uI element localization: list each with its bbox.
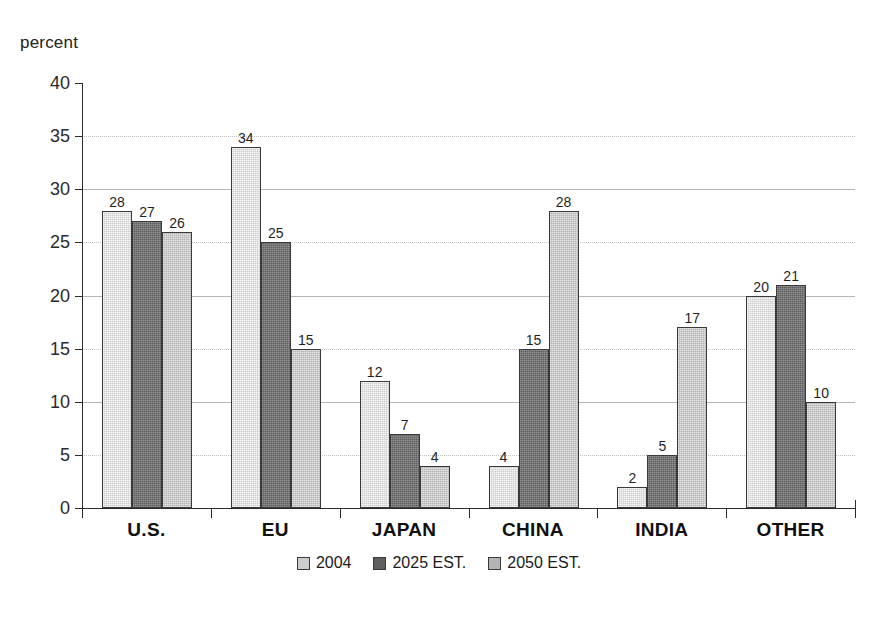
bar-value-label: 21	[783, 269, 799, 283]
y-axis-tick	[75, 83, 83, 84]
bar-value-label: 4	[500, 450, 508, 464]
scan-artifact	[120, 600, 798, 612]
bar-group: 2517	[597, 83, 726, 508]
y-axis-label: 25	[26, 233, 70, 251]
x-axis-category-label: OTHER	[726, 519, 855, 541]
bar-group: 41528	[469, 83, 598, 508]
bar[interactable]: 4	[489, 466, 519, 509]
x-axis-tick	[855, 509, 856, 518]
bar-chart: percent 2827263425151274415282517202110 …	[0, 0, 878, 618]
bar[interactable]: 12	[360, 381, 390, 509]
x-axis-tick	[726, 509, 727, 518]
bar[interactable]: 20	[746, 296, 776, 509]
bar-value-label: 28	[556, 195, 572, 209]
bar-value-label: 5	[658, 439, 666, 453]
bar-value-label: 12	[367, 365, 383, 379]
legend-item[interactable]: 2025 EST.	[373, 555, 466, 571]
bar-value-label: 2	[628, 471, 636, 485]
legend-label: 2025 EST.	[392, 555, 466, 571]
bar[interactable]: 15	[291, 349, 321, 508]
bar-value-label: 7	[401, 418, 409, 432]
legend-item[interactable]: 2004	[297, 555, 352, 571]
x-axis-tick	[597, 509, 598, 518]
legend-item[interactable]: 2050 EST.	[488, 555, 581, 571]
bar[interactable]: 15	[519, 349, 549, 508]
y-axis-label: 30	[26, 180, 70, 198]
bar-value-label: 20	[753, 280, 769, 294]
y-axis-tick	[75, 349, 83, 350]
bar-value-label: 28	[109, 195, 125, 209]
legend-label: 2004	[316, 555, 352, 571]
y-axis-tick	[75, 189, 83, 190]
bar-value-label: 26	[169, 216, 185, 230]
x-axis-category-label: U.S.	[82, 519, 211, 541]
y-axis-tick	[75, 242, 83, 243]
bar-value-label: 15	[298, 333, 314, 347]
legend-swatch-icon	[373, 557, 386, 570]
y-axis-label: 5	[26, 446, 70, 464]
legend-swatch-icon	[297, 557, 310, 570]
x-axis-tick	[82, 509, 83, 518]
y-axis-tick	[75, 136, 83, 137]
bar[interactable]: 25	[261, 242, 291, 508]
legend-label: 2050 EST.	[507, 555, 581, 571]
y-axis-title: percent	[20, 33, 78, 53]
bar-value-label: 10	[813, 386, 829, 400]
bar-group: 282726	[82, 83, 211, 508]
bar[interactable]: 26	[162, 232, 192, 508]
y-axis-label: 20	[26, 287, 70, 305]
bar-value-label: 17	[685, 311, 701, 325]
bar[interactable]: 10	[806, 402, 836, 508]
bar-value-label: 27	[139, 205, 155, 219]
chart-legend: 20042025 EST.2050 EST.	[0, 555, 878, 571]
bar[interactable]: 4	[420, 466, 450, 509]
y-axis-label: 40	[26, 74, 70, 92]
legend-swatch-icon	[488, 557, 501, 570]
y-axis-label: 15	[26, 340, 70, 358]
x-axis-category-label: JAPAN	[340, 519, 469, 541]
bar[interactable]: 21	[776, 285, 806, 508]
x-axis-tick	[340, 509, 341, 518]
bar-group: 202110	[726, 83, 855, 508]
bar[interactable]: 7	[390, 434, 420, 508]
y-axis-tick	[75, 455, 83, 456]
y-axis-label: 10	[26, 393, 70, 411]
y-axis-tick	[75, 402, 83, 403]
bar[interactable]: 17	[677, 327, 707, 508]
bar-group: 342515	[211, 83, 340, 508]
y-axis-label: 0	[26, 499, 70, 517]
bar-value-label: 25	[268, 226, 284, 240]
x-axis-right-cap	[855, 500, 856, 509]
bar-group: 1274	[340, 83, 469, 508]
bar[interactable]: 34	[231, 147, 261, 508]
bar[interactable]: 28	[549, 211, 579, 509]
bar[interactable]: 5	[647, 455, 677, 508]
x-axis-category-label: EU	[211, 519, 340, 541]
plot-area: 2827263425151274415282517202110	[82, 83, 855, 508]
x-axis-tick	[211, 509, 212, 518]
x-axis-tick	[469, 509, 470, 518]
bar[interactable]: 28	[102, 211, 132, 509]
x-axis-category-label: INDIA	[597, 519, 726, 541]
y-axis-tick	[75, 296, 83, 297]
y-axis-label: 35	[26, 127, 70, 145]
bar[interactable]: 27	[132, 221, 162, 508]
bar-value-label: 4	[431, 450, 439, 464]
x-axis-category-label: CHINA	[469, 519, 598, 541]
bar-value-label: 34	[238, 131, 254, 145]
bar[interactable]: 2	[617, 487, 647, 508]
bar-value-label: 15	[526, 333, 542, 347]
